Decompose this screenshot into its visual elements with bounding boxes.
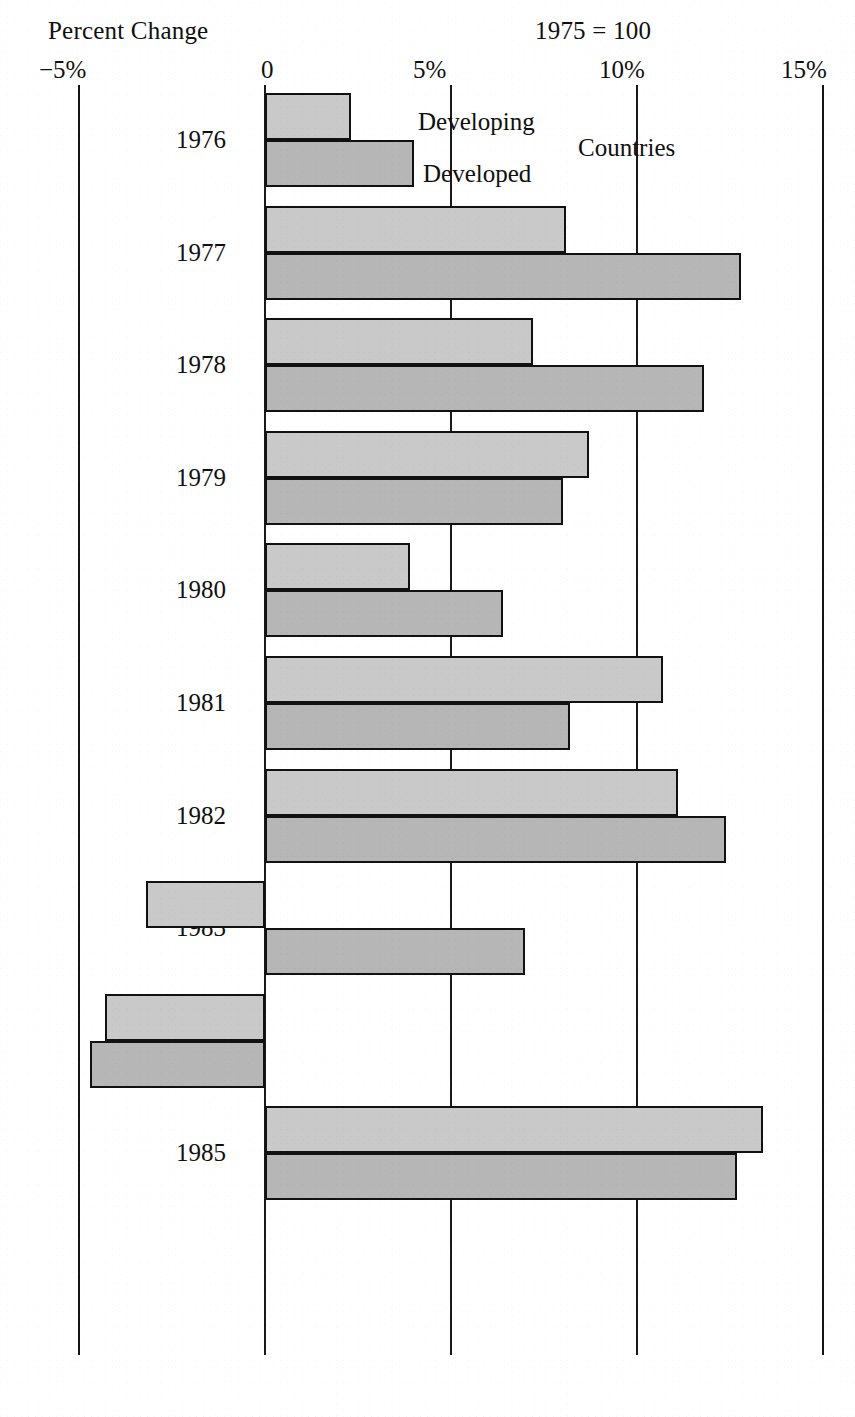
x-tick-label-0: 0 <box>261 56 274 84</box>
legend-label-countries: Countries <box>578 134 675 162</box>
gridline-15 <box>822 85 824 1355</box>
chart-index-note: 1975 = 100 <box>535 17 651 45</box>
bar-developed-1982 <box>265 816 726 863</box>
bar-developing-1980 <box>265 543 410 590</box>
y-tick-label-1978: 1978 <box>0 351 226 379</box>
chart-canvas: Percent Change 1975 = 100 −5%05%10%15% 1… <box>0 0 855 1417</box>
bar-developing-1981 <box>265 656 663 703</box>
y-tick-label-1980: 1980 <box>0 576 226 604</box>
bar-developed-1978 <box>265 365 704 412</box>
bar-developed-1984 <box>90 1041 265 1088</box>
legend-label-developed: Developed <box>423 160 531 188</box>
y-tick-label-1977: 1977 <box>0 239 226 267</box>
bar-developing-1983 <box>146 881 265 928</box>
bar-developed-1980 <box>265 590 503 637</box>
y-tick-label-1985: 1985 <box>0 1139 226 1167</box>
y-tick-label-1979: 1979 <box>0 464 226 492</box>
bar-developing-1977 <box>265 206 566 253</box>
chart-title: Percent Change <box>48 17 208 45</box>
y-tick-label-1976: 1976 <box>0 126 226 154</box>
bar-developing-1984 <box>105 994 265 1041</box>
x-tick-label-neg5: −5% <box>39 56 86 84</box>
bar-developing-1982 <box>265 769 678 816</box>
x-tick-label-5: 5% <box>413 56 446 84</box>
legend-label-developing: Developing <box>418 108 535 136</box>
bar-developed-1977 <box>265 253 741 300</box>
bar-developed-1981 <box>265 703 570 750</box>
bar-developed-1983 <box>265 928 525 975</box>
x-tick-label-10: 10% <box>599 56 645 84</box>
bar-developed-1976 <box>265 140 414 187</box>
bar-developing-1985 <box>265 1106 763 1153</box>
bar-developed-1979 <box>265 478 563 525</box>
y-tick-label-1982: 1982 <box>0 802 226 830</box>
x-tick-label-15: 15% <box>781 56 827 84</box>
bar-developed-1985 <box>265 1153 737 1200</box>
y-tick-label-1981: 1981 <box>0 689 226 717</box>
bar-developing-1978 <box>265 318 533 365</box>
bar-developing-1979 <box>265 431 589 478</box>
bar-developing-1976 <box>265 93 351 140</box>
